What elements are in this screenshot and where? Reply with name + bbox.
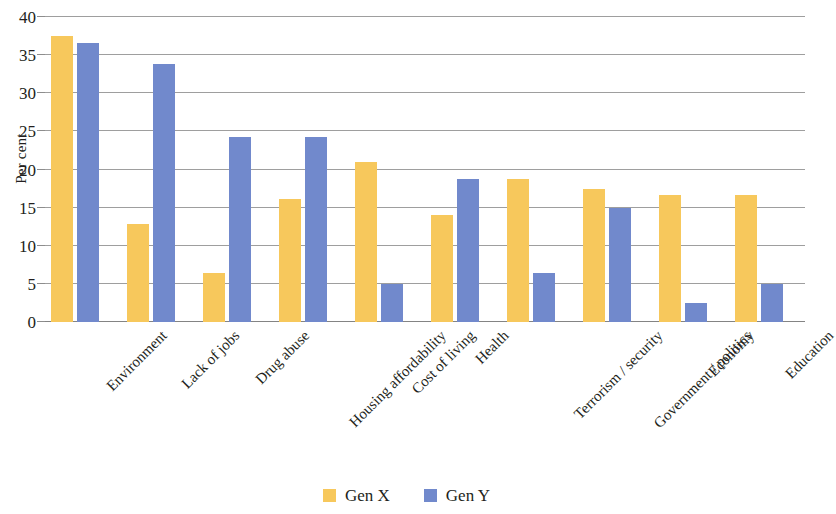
bar-gen-x [203,273,225,322]
y-tick-label-5: 5 [28,275,37,292]
bar-group [729,17,805,322]
y-tick-label-30: 30 [19,85,36,102]
bar-group [425,17,501,322]
bar-group [273,17,349,322]
legend-item[interactable]: Gen X [323,487,390,504]
bar-gen-x [431,215,453,322]
bar-gen-y [761,284,783,322]
y-tick-label-15: 15 [19,199,36,216]
y-tick-mark-0 [37,321,45,322]
legend-label: Gen Y [446,487,490,504]
bar-gen-x [507,179,529,322]
bar-gen-x [51,36,73,322]
x-axis-label: Environment [104,328,170,394]
bar-gen-y [685,303,707,322]
bar-gen-y [229,137,251,322]
y-tick-mark-15 [37,207,45,208]
bar-gen-y [153,64,175,322]
y-tick-mark-35 [37,54,45,55]
y-tick-mark-30 [37,92,45,93]
bar-gen-y [609,208,631,322]
bar-groups [45,17,805,322]
bar-group [45,17,121,322]
y-tick-mark-10 [37,245,45,246]
x-axis-label: Drug abuse [253,328,312,387]
y-tick-mark-40 [37,16,45,17]
y-tick-label-10: 10 [19,237,36,254]
y-tick-mark-20 [37,169,45,170]
bar-group [501,17,577,322]
bar-gen-y [305,137,327,322]
bar-group [577,17,653,322]
bar-gen-x [659,195,681,322]
bar-gen-x [127,224,149,322]
bar-group [121,17,197,322]
x-axis-label: Health [473,328,512,367]
bar-gen-y [77,43,99,322]
legend-label: Gen X [345,487,390,504]
bar-group [349,17,425,322]
x-axis-label: Education [783,328,836,382]
bar-group [653,17,729,322]
x-axis-label: Terrorism / security [572,328,666,422]
bar-gen-x [355,162,377,322]
y-tick-label-35: 35 [19,47,36,64]
bar-gen-y [381,284,403,322]
y-tick-label-40: 40 [19,9,36,26]
legend-swatch-icon [323,489,336,502]
bar-group [197,17,273,322]
bar-gen-x [583,189,605,322]
bar-gen-y [533,273,555,322]
x-axis-label: Lack of jobs [179,328,243,392]
y-tick-mark-25 [37,130,45,131]
y-tick-label-20: 20 [19,161,36,178]
bar-gen-x [279,199,301,322]
y-tick-label-25: 25 [19,123,36,140]
legend-item[interactable]: Gen Y [424,487,490,504]
bar-gen-x [735,195,757,322]
y-axis-tick-labels: 0510152025303540 [0,0,44,340]
y-tick-label-0: 0 [28,314,37,331]
y-tick-mark-5 [37,283,45,284]
chart-legend: Gen XGen Y [0,487,813,504]
x-axis-label: Economy [706,328,757,379]
bar-gen-y [457,179,479,322]
plot-area [45,17,805,322]
x-axis-category-labels: EnvironmentLack of jobsDrug abuseHousing… [45,322,805,482]
legend-swatch-icon [424,489,437,502]
